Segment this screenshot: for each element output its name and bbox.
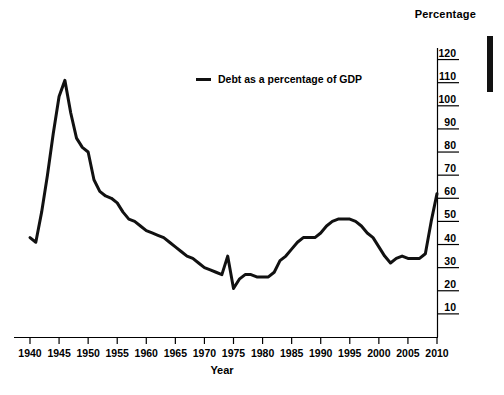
svg-text:100: 100 bbox=[438, 93, 456, 105]
svg-text:70: 70 bbox=[444, 162, 456, 174]
svg-text:60: 60 bbox=[444, 185, 456, 197]
svg-text:110: 110 bbox=[439, 70, 456, 82]
svg-text:30: 30 bbox=[444, 255, 456, 267]
svg-text:1980: 1980 bbox=[251, 347, 275, 359]
svg-text:1940: 1940 bbox=[18, 347, 42, 359]
svg-text:2005: 2005 bbox=[396, 347, 420, 359]
legend-swatch-debt bbox=[196, 78, 211, 81]
svg-text:1960: 1960 bbox=[135, 347, 159, 359]
legend-label-debt: Debt as a percentage of GDP bbox=[218, 73, 362, 85]
y-axis-title: Percentage bbox=[415, 8, 476, 20]
x-axis-title: Year bbox=[0, 364, 504, 376]
svg-text:10: 10 bbox=[444, 301, 456, 313]
svg-text:1945: 1945 bbox=[47, 347, 71, 359]
chart-plot-area: 1020304050607080901001101201940194519501… bbox=[0, 0, 504, 395]
svg-text:1975: 1975 bbox=[222, 347, 246, 359]
svg-text:50: 50 bbox=[444, 208, 456, 220]
chart-legend: Debt as a percentage of GDP bbox=[196, 73, 362, 85]
svg-text:20: 20 bbox=[444, 278, 456, 290]
svg-text:90: 90 bbox=[444, 116, 456, 128]
svg-text:120: 120 bbox=[438, 47, 456, 59]
svg-text:1970: 1970 bbox=[193, 347, 217, 359]
svg-text:2000: 2000 bbox=[367, 347, 391, 359]
svg-text:1990: 1990 bbox=[309, 347, 333, 359]
svg-text:40: 40 bbox=[444, 232, 456, 244]
svg-text:80: 80 bbox=[444, 139, 456, 151]
svg-text:1985: 1985 bbox=[280, 347, 304, 359]
chart-figure: Percentage Debt as a percentage of GDP 1… bbox=[0, 0, 504, 395]
svg-text:1955: 1955 bbox=[106, 347, 130, 359]
svg-text:1995: 1995 bbox=[338, 347, 362, 359]
decorative-side-bar bbox=[487, 36, 493, 92]
svg-text:2010: 2010 bbox=[425, 347, 449, 359]
svg-text:1965: 1965 bbox=[164, 347, 188, 359]
svg-text:1950: 1950 bbox=[76, 347, 100, 359]
